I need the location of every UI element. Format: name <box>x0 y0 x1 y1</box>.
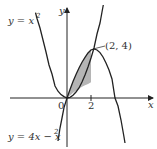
area-between-curves-diagram: (2, 4) y x 0 2 y = x 2 y = 4x − x 2 <box>0 0 157 149</box>
x-axis-label: x <box>148 99 154 110</box>
point-label: (2, 4) <box>105 40 132 51</box>
origin-label: 0 <box>58 100 64 111</box>
curve-label-4x-minus-x-squared-exponent: 2 <box>53 128 59 136</box>
curve-y-equals-x-squared <box>36 5 104 98</box>
curve-label-x-squared: y = x <box>7 15 34 26</box>
x-tick-label-2: 2 <box>88 100 94 111</box>
y-axis-label: y <box>58 5 65 16</box>
curve-label-4x-minus-x-squared: y = 4x − x <box>7 131 61 142</box>
curve-label-x-squared-exponent: 2 <box>35 12 41 20</box>
shaded-region <box>67 49 91 98</box>
